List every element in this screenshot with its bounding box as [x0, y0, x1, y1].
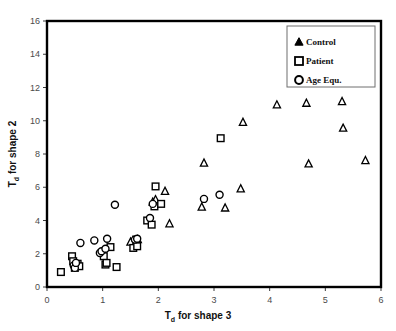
- y-tick-label: 0: [35, 282, 40, 292]
- data-point-square: [134, 243, 141, 250]
- data-point-circle: [104, 235, 111, 242]
- legend-label: Control: [306, 37, 336, 47]
- x-tick-label: 6: [378, 295, 383, 305]
- y-tick-label: 12: [30, 83, 40, 93]
- data-point-circle: [134, 235, 141, 242]
- data-point-square: [103, 260, 110, 267]
- data-point-circle: [200, 195, 207, 202]
- y-tick-label: 16: [30, 16, 40, 26]
- y-tick-label: 10: [30, 116, 40, 126]
- data-point-circle: [72, 259, 79, 266]
- x-tick-label: 1: [100, 295, 105, 305]
- x-tick-label: 3: [211, 295, 216, 305]
- chart-canvas: 0123456 0246810121416 Td for shape 3 Td …: [0, 0, 396, 331]
- data-point-circle: [77, 239, 84, 246]
- x-axis-title: Td for shape 3: [165, 310, 232, 323]
- data-point-circle: [216, 191, 223, 198]
- x-tick-label: 0: [44, 295, 49, 305]
- data-point-circle: [111, 201, 118, 208]
- svg-text:Td for shape 2: Td for shape 2: [7, 120, 20, 187]
- legend-marker-square-icon: [295, 57, 303, 65]
- legend-item-patient: Patient: [295, 56, 334, 66]
- data-point-square: [158, 201, 165, 208]
- y-tick-label: 8: [35, 149, 40, 159]
- data-point-square: [152, 183, 159, 190]
- data-point-circle: [91, 237, 98, 244]
- data-point-circle: [149, 200, 156, 207]
- svg-text:Td for shape 3: Td for shape 3: [165, 310, 232, 323]
- y-tick-label: 14: [30, 49, 40, 59]
- y-tick-labels: 0246810121416: [30, 16, 40, 292]
- y-tick-label: 6: [35, 182, 40, 192]
- x-tick-label: 4: [267, 295, 272, 305]
- data-point-circle: [146, 214, 153, 221]
- legend-label: Patient: [306, 56, 334, 66]
- data-point-circle: [102, 245, 109, 252]
- data-point-square: [113, 264, 120, 271]
- data-point-square: [58, 269, 65, 276]
- scatter-plot-figure: 0123456 0246810121416 Td for shape 3 Td …: [0, 0, 396, 331]
- x-tick-label: 5: [323, 295, 328, 305]
- data-point-square: [148, 221, 155, 228]
- y-tick-label: 4: [35, 216, 40, 226]
- x-tick-label: 2: [156, 295, 161, 305]
- data-point-square: [217, 135, 224, 142]
- legend-label: Age Equ.: [306, 75, 342, 85]
- y-axis-title: Td for shape 2: [7, 120, 20, 187]
- x-tick-labels: 0123456: [44, 295, 383, 305]
- chart-legend: ControlPatientAge Equ.: [287, 26, 375, 87]
- y-tick-label: 2: [35, 249, 40, 259]
- legend-marker-circle-icon: [295, 76, 303, 84]
- legend-item-age-equ: Age Equ.: [295, 75, 341, 85]
